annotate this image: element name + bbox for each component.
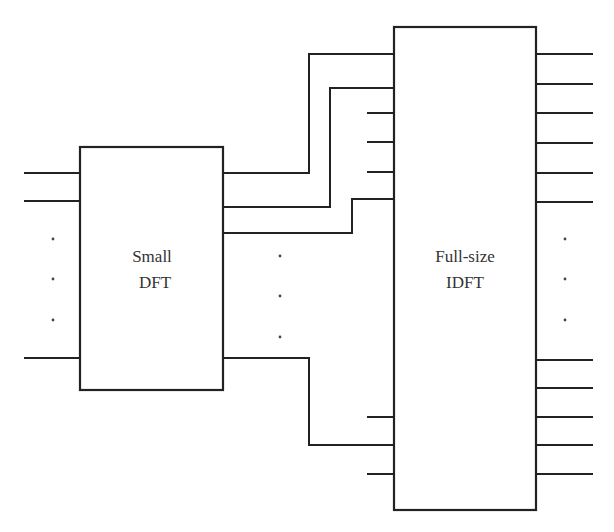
- ellipsis-dot: [279, 295, 282, 298]
- small-dft-block: Small DFT: [80, 147, 223, 390]
- full-idft-block: Full-size IDFT: [394, 27, 536, 510]
- mapping-line: [223, 358, 394, 445]
- ellipsis-dot: [564, 278, 567, 281]
- small-dft-label-line1: Small: [132, 247, 172, 266]
- small-dft-label-line2: DFT: [139, 273, 172, 292]
- full-idft-label-line2: IDFT: [446, 273, 484, 292]
- idft-unused-inputs: [367, 113, 394, 474]
- ellipsis-dot: [279, 336, 282, 339]
- ellipsis-dot: [279, 255, 282, 258]
- small-dft-inputs: [24, 173, 80, 358]
- full-idft-label-line1: Full-size: [435, 247, 495, 266]
- ellipsis-dot: [52, 278, 55, 281]
- dft-spread-ofdm-diagram: Small DFT Full-size IDFT: [0, 0, 614, 532]
- ellipsis-dot: [52, 319, 55, 322]
- ellipsis-dot: [564, 319, 567, 322]
- ellipsis-dot: [564, 238, 567, 241]
- ellipsis-dot: [52, 238, 55, 241]
- mapping-line: [223, 199, 394, 233]
- idft-outputs: [536, 54, 593, 474]
